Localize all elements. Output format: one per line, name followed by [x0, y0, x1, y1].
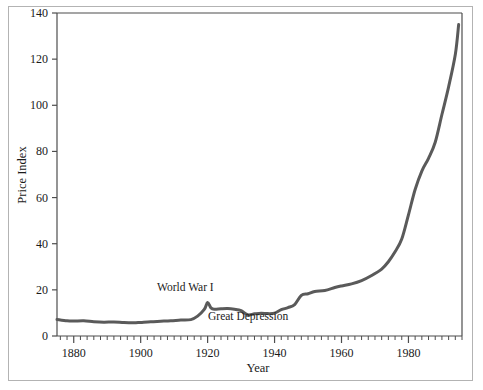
price-index-line — [57, 25, 459, 323]
x-tick-label: 1960 — [330, 346, 354, 360]
x-tick-label: 1920 — [196, 346, 220, 360]
y-tick-label: 100 — [30, 98, 48, 112]
x-axis-minor-ticks — [60, 336, 462, 340]
x-tick-label: 1880 — [62, 346, 86, 360]
y-tick-label: 40 — [36, 237, 48, 251]
chart-annotation: World War I — [157, 281, 214, 293]
y-axis-title: Price Index — [15, 146, 29, 204]
x-tick-label: 1940 — [263, 346, 287, 360]
x-tick-label: 1980 — [396, 346, 420, 360]
y-tick-label: 120 — [30, 52, 48, 66]
y-tick-label: 60 — [36, 191, 48, 205]
y-tick-label: 20 — [36, 283, 48, 297]
plot-axes — [57, 13, 462, 336]
y-tick-label: 140 — [30, 6, 48, 20]
y-axis-ticks: 020406080100120140 — [30, 6, 57, 343]
price-index-line-chart: 020406080100120140 188019001920194019601… — [0, 0, 483, 390]
y-tick-label: 80 — [36, 144, 48, 158]
y-tick-label: 0 — [42, 329, 48, 343]
x-tick-label: 1900 — [129, 346, 153, 360]
chart-annotations: World War IGreat Depression — [157, 281, 288, 323]
chart-figure: 020406080100120140 188019001920194019601… — [0, 0, 483, 390]
x-axis-title: Year — [246, 361, 270, 375]
chart-annotation: Great Depression — [208, 310, 288, 323]
